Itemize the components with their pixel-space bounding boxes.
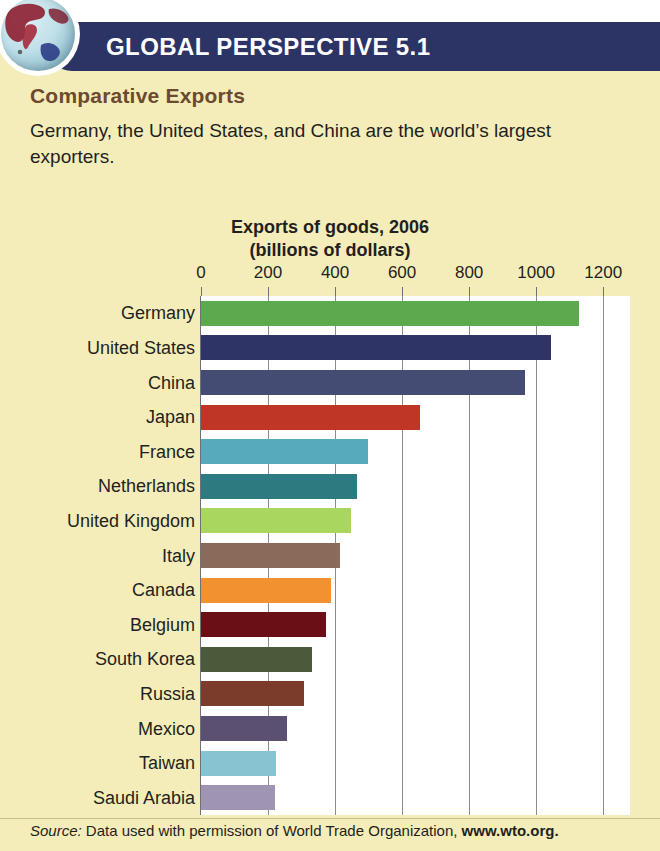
bar-row: China (201, 370, 630, 395)
x-axis-tick-label: 600 (388, 263, 416, 283)
bar (201, 612, 326, 637)
y-axis-category-label: United Kingdom (67, 510, 195, 531)
page-top-margin (0, 0, 660, 22)
y-axis-category-label: Italy (162, 545, 195, 566)
bar (201, 716, 287, 741)
bar-row: United Kingdom (201, 508, 630, 533)
y-axis-category-label: Belgium (130, 614, 195, 635)
x-axis-tick-label: 1200 (584, 263, 622, 283)
section-subtitle: Comparative Exports (30, 84, 245, 108)
bar-row: France (201, 439, 630, 464)
x-axis-tick-label: 0 (196, 263, 205, 283)
source-note: Source: Data used with permission of Wor… (30, 822, 650, 839)
bar-row: Japan (201, 405, 630, 430)
bar-row: United States (201, 335, 630, 360)
bar (201, 405, 420, 430)
axis-tick (335, 287, 336, 296)
globe-icon-landmasses (1, 0, 75, 71)
axis-tick (536, 287, 537, 296)
chart-title-line2: (billions of dollars) (0, 239, 660, 262)
axis-tick (469, 287, 470, 296)
global-perspective-banner: GLOBAL PERSPECTIVE 5.1 (48, 22, 660, 71)
y-axis-category-label: Saudi Arabia (93, 787, 195, 808)
axis-tick (603, 287, 604, 296)
y-axis-category-label: South Korea (95, 649, 195, 670)
chart-title-line1: Exports of goods, 2006 (231, 217, 429, 237)
bar-row: Netherlands (201, 474, 630, 499)
y-axis-category-label: Netherlands (98, 476, 195, 497)
globe-icon-sphere (1, 0, 75, 71)
global-perspective-box: GLOBAL PERSPECTIVE 5.1 Comparative Expor… (0, 0, 660, 851)
bar (201, 543, 340, 568)
y-axis-category-label: Japan (146, 407, 195, 428)
footer-divider (0, 818, 660, 819)
source-label: Source: (30, 822, 82, 839)
banner-title: GLOBAL PERSPECTIVE 5.1 (106, 33, 430, 61)
x-axis-tick-label: 800 (455, 263, 483, 283)
y-axis-category-label: United States (87, 337, 195, 358)
source-url: www.wto.org. (462, 822, 559, 839)
bar (201, 681, 304, 706)
source-text: Data used with permission of World Trade… (82, 822, 462, 839)
bar-row: Taiwan (201, 751, 630, 776)
y-axis-category-label: China (148, 372, 195, 393)
bar (201, 751, 276, 776)
globe-icon (0, 0, 80, 76)
bar (201, 647, 312, 672)
bar-row: Russia (201, 681, 630, 706)
y-axis-category-label: Germany (121, 303, 195, 324)
bar (201, 785, 275, 810)
bar-row: Germany (201, 301, 630, 326)
x-axis-tick-label: 400 (321, 263, 349, 283)
bar-row: Canada (201, 578, 630, 603)
bar-chart-plot-area: 020040060080010001200GermanyUnited State… (200, 296, 630, 815)
y-axis-category-label: Taiwan (139, 753, 195, 774)
y-axis-category-label: Canada (132, 580, 195, 601)
y-axis-category-label: France (139, 441, 195, 462)
bar-row: Saudi Arabia (201, 785, 630, 810)
bar (201, 508, 351, 533)
y-axis-category-label: Mexico (138, 718, 195, 739)
bar (201, 578, 331, 603)
bar-row: Mexico (201, 716, 630, 741)
bar (201, 439, 368, 464)
x-axis-tick-label: 200 (254, 263, 282, 283)
bar (201, 335, 551, 360)
x-axis-tick-label: 1000 (517, 263, 555, 283)
axis-tick (201, 287, 202, 296)
bar-row: Belgium (201, 612, 630, 637)
chart-title: Exports of goods, 2006 (billions of doll… (0, 216, 660, 261)
axis-tick (268, 287, 269, 296)
section-intro-text: Germany, the United States, and China ar… (30, 118, 630, 169)
bar (201, 301, 579, 326)
bar (201, 370, 525, 395)
bar-row: South Korea (201, 647, 630, 672)
bar-row: Italy (201, 543, 630, 568)
bar (201, 474, 357, 499)
y-axis-category-label: Russia (140, 683, 195, 704)
axis-tick (402, 287, 403, 296)
